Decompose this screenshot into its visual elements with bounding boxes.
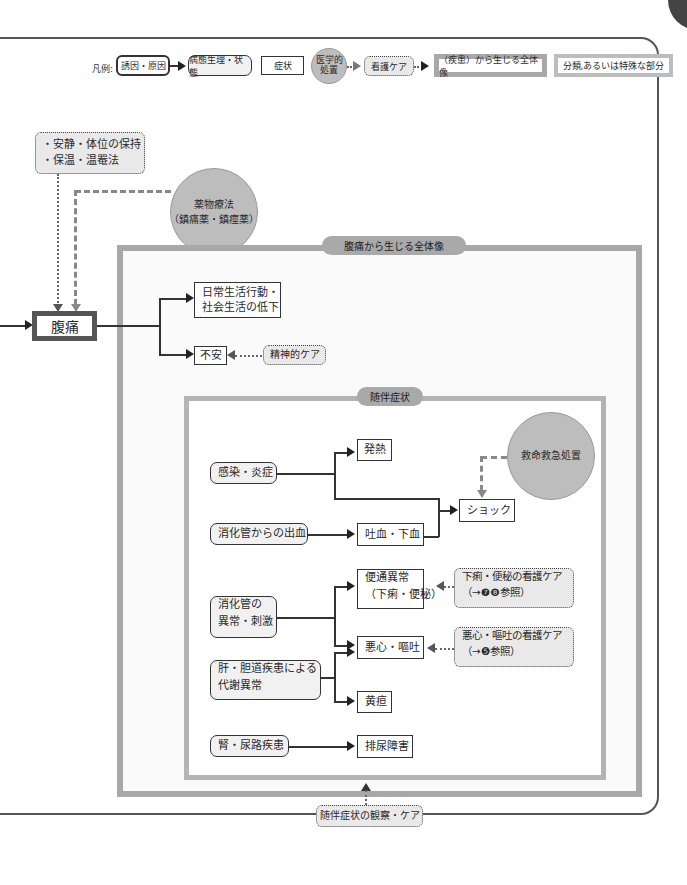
connector (334, 701, 348, 703)
branch-h-anxiety (159, 354, 187, 356)
nausea-care-line2: （→❺参照） (462, 644, 520, 660)
symptom-jaundice: 黄疸 (357, 691, 392, 713)
cause-kidney: 腎・尿路疾患 (210, 735, 289, 757)
connector (321, 677, 335, 679)
liver-line1: 肝・胆道疾患による (218, 661, 317, 678)
symptom-nausea: 悪心・嘔吐 (357, 636, 424, 659)
adl-line2: 社会生活の低下 (202, 300, 279, 315)
symptom-shock: ショック (459, 499, 515, 522)
legend-medical: 医学的処置 (311, 48, 347, 84)
legend-whole-picture: （疾患）から生じる全体像 (434, 54, 547, 77)
arrow-left-icon (227, 350, 235, 360)
bowel-care-line2: （→❼❽参照） (462, 585, 530, 601)
symptom-urination: 排尿障害 (357, 735, 413, 758)
arrow-right-icon (347, 529, 355, 539)
care-item-warmth: ・保温・温罨法 (42, 153, 119, 170)
observation-connector (365, 790, 367, 805)
drug-therapy-detail: （鎮痛薬・鎮痙薬） (169, 212, 259, 227)
cause-liver: 肝・胆道疾患による 代謝異常 (210, 660, 321, 700)
observation-care: 随伴症状の観察・ケア (316, 805, 423, 827)
page-tab-marker (668, 0, 687, 30)
adl-decline: 日常生活行動・ 社会生活の低下 (194, 282, 281, 318)
mental-care-connector (235, 355, 262, 357)
gi-line1: 消化管の (218, 597, 262, 614)
connector (334, 452, 336, 499)
legend-arrow-icon (178, 61, 186, 71)
bowel-care-connector (444, 586, 454, 588)
nausea-care: 悪心・嘔吐の看護ケア （→❺参照） (454, 627, 574, 667)
drug-connector-h (75, 190, 171, 193)
connector (438, 498, 440, 537)
emergency-connector-h (481, 456, 507, 459)
connector (289, 746, 348, 748)
connector (277, 617, 335, 619)
connector (277, 473, 335, 475)
branch-v (159, 298, 161, 354)
adl-line1: 日常生活行動・ (202, 285, 279, 300)
emergency-connector-v (480, 456, 483, 491)
arrow-right-icon (186, 349, 194, 359)
connector (334, 652, 336, 702)
accompanying-symptoms-tag: 随伴症状 (357, 387, 423, 406)
connector (334, 452, 348, 454)
legend-symptom: 症状 (261, 56, 304, 75)
arrow-right-icon (347, 447, 355, 457)
symptom-fever: 発熱 (357, 439, 392, 461)
arrow-right-icon (347, 741, 355, 751)
arrow-right-icon (347, 581, 355, 591)
bowel-care: 下痢・便秘の看護ケア （→❼❽参照） (454, 568, 574, 608)
liver-line2: 代謝異常 (218, 678, 262, 695)
legend-care: 看護ケア (364, 56, 414, 76)
bowel-care-line1: 下痢・便秘の看護ケア (462, 569, 562, 585)
cause-infection: 感染・炎症 (210, 462, 277, 484)
anxiety: 不安 (194, 346, 227, 365)
connector (308, 534, 348, 536)
connector (334, 586, 336, 646)
main-symptom-abdominal-pain: 腹痛 (32, 311, 97, 341)
arrow-right-icon (186, 293, 194, 303)
nausea-care-line1: 悪心・嘔吐の看護ケア (462, 628, 562, 644)
arrow-down-icon (477, 490, 487, 498)
drug-therapy-title: 薬物療法 (194, 197, 234, 212)
connector (334, 586, 348, 588)
connector (438, 510, 450, 512)
symptom-hematemesis: 吐血・下血 (357, 523, 424, 546)
mental-care: 精神的ケア (263, 345, 326, 365)
arrow-right-icon (347, 696, 355, 706)
care-item-rest: ・安静・体位の保持 (42, 137, 141, 154)
connector (334, 498, 438, 500)
legend-label: 凡例: (92, 62, 113, 75)
whole-picture-tag: 腹痛から生じる全体像 (322, 236, 466, 255)
connector (334, 652, 348, 654)
main-connector (97, 325, 160, 327)
emergency-treatment: 救命救急処置 (507, 412, 595, 500)
cause-gi-abnormal: 消化管の 異常・刺激 (210, 596, 277, 638)
gi-line2: 異常・刺激 (218, 614, 273, 631)
arrow-left-icon (427, 643, 435, 653)
legend-arrow-icon (421, 61, 429, 71)
legend-classification: 分類,あるいは特殊な部分 (554, 54, 673, 77)
branch-h-adl (159, 298, 187, 300)
care-connector (57, 174, 59, 306)
legend-arrow-icon (353, 61, 361, 71)
cause-gi-bleeding: 消化管からの出血 (210, 523, 308, 545)
connector (334, 645, 348, 647)
legend-state: 病態生理・状態 (188, 55, 252, 76)
incoming-line (0, 325, 26, 327)
arrow-right-icon (347, 647, 355, 657)
rest-warmth-care: ・安静・体位の保持 ・保温・温罨法 (35, 132, 145, 174)
arrow-right-icon (450, 505, 458, 515)
legend-cause: 誘因・原因 (116, 55, 170, 76)
drug-therapy: 薬物療法 （鎮痛薬・鎮痙薬） (170, 168, 258, 256)
bowel-line2: （下痢・便秘） (365, 587, 442, 604)
drug-connector-v (74, 190, 77, 305)
nausea-care-connector (435, 648, 454, 650)
connector (424, 536, 439, 538)
bowel-line1: 便通異常 (365, 570, 409, 587)
symptom-bowel: 便通異常 （下痢・便秘） (357, 569, 424, 609)
arrow-left-icon (436, 581, 444, 591)
